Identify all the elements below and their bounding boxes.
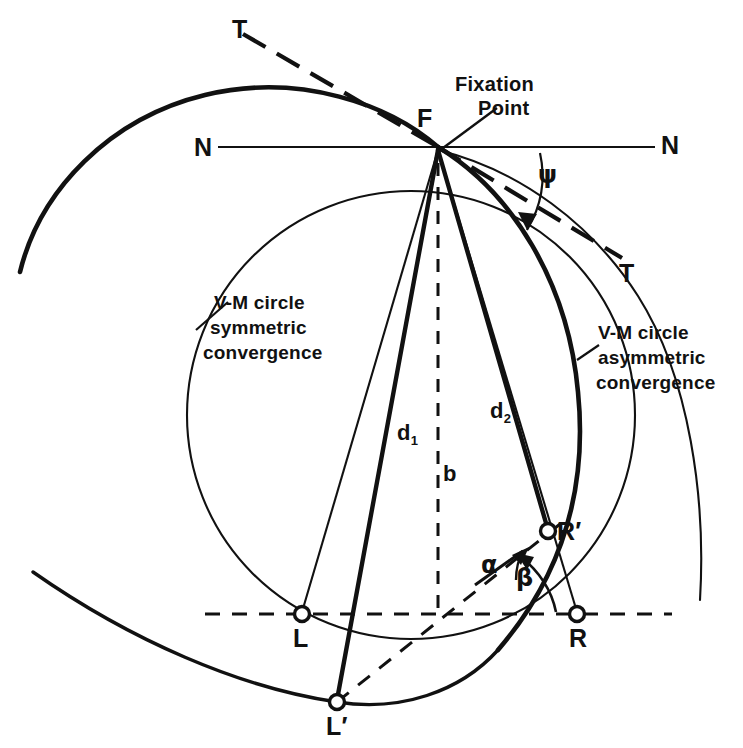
- symmetric-circle-outline: [187, 191, 635, 639]
- label-vm-asymmetric-line2: asymmetric: [598, 345, 706, 370]
- vm-asymmetric-leader: [577, 345, 599, 360]
- distance-d1-line: [337, 150, 438, 700]
- label-nasal-right: N: [661, 130, 679, 161]
- d2-subscript: 2: [504, 411, 511, 426]
- label-fixation-point-line1: Fixation: [455, 72, 534, 96]
- label-point-f: F: [417, 103, 432, 134]
- label-fixation-point-line2: Point: [478, 96, 530, 120]
- marker-point-L: [295, 607, 310, 622]
- label-angle-psi: ψ: [538, 161, 557, 190]
- label-vm-symmetric-line1: V-M circle: [214, 290, 305, 315]
- label-point-l: L: [293, 623, 308, 654]
- temporal-axis-upper-dash: [243, 34, 438, 147]
- label-angle-alpha: α: [481, 551, 498, 580]
- vm-circle-symmetric: [187, 191, 635, 639]
- label-temporal-lower: T: [619, 258, 634, 289]
- d1-base: d: [397, 420, 411, 445]
- vm-asymmetric-leader-segment: [577, 345, 599, 360]
- label-vm-symmetric-line2: symmetric: [210, 315, 307, 340]
- figure-root: T Fixation Point F N N ψ T V-M circle sy…: [0, 0, 743, 748]
- label-point-l-prime: L′: [326, 711, 348, 742]
- d1-subscript: 1: [411, 433, 418, 448]
- asymmetric-arc-upper: [20, 87, 438, 272]
- d2-base: d: [490, 398, 504, 423]
- label-nasal-left: N: [194, 132, 212, 163]
- label-vm-symmetric-line3: convergence: [203, 340, 322, 365]
- sight-line-FL: [302, 150, 438, 612]
- label-distance-d1: d1: [397, 420, 418, 449]
- d1-segment: [337, 150, 438, 700]
- marker-point-R: [570, 607, 585, 622]
- label-distance-d2: d2: [490, 398, 511, 427]
- label-point-r-prime: R′: [557, 516, 581, 547]
- label-temporal-upper: T: [232, 14, 247, 45]
- label-angle-beta: β: [516, 564, 533, 593]
- label-baseline-b: b: [443, 461, 457, 488]
- marker-point-R-prime: [541, 524, 556, 539]
- marker-point-L-prime: [330, 695, 345, 710]
- label-vm-asymmetric-line3: convergence: [596, 370, 715, 395]
- label-vm-asymmetric-line1: V-M circle: [598, 320, 689, 345]
- label-point-r: R: [569, 623, 587, 654]
